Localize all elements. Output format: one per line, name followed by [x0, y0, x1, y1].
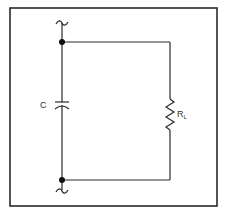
resistor-zigzag [166, 99, 174, 130]
bottom-junction-node [59, 177, 65, 183]
capacitor-label: C [40, 100, 47, 110]
top-junction-node [59, 39, 65, 45]
circuit-diagram: C RL [0, 0, 226, 213]
resistor-label: RL [177, 109, 188, 120]
resistor-label-subscript: L [184, 114, 188, 120]
